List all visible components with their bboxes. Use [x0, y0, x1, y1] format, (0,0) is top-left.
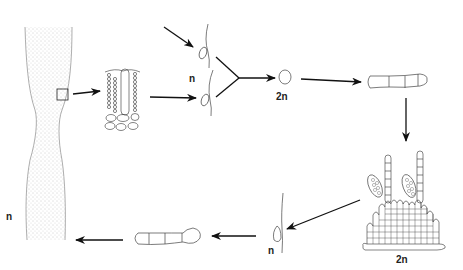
gametes [198, 24, 213, 116]
label-spore-ploidy: n [268, 245, 274, 256]
gametophyte-thallus [25, 27, 72, 240]
zygote [279, 70, 291, 84]
thallus-cross-section [105, 69, 140, 131]
sporophyte-with-sporangia [363, 151, 445, 250]
young-gametophyte [135, 228, 200, 245]
germling-filament [368, 74, 427, 88]
label-sporophyte-ploidy: 2n [396, 254, 408, 265]
label-thallus-ploidy-text: n [6, 211, 12, 222]
spore [273, 193, 283, 253]
label-zygote-ploidy: 2n [276, 91, 288, 102]
life-cycle-diagram: n 2n [0, 0, 463, 270]
label-gametes-ploidy: n [189, 73, 195, 84]
